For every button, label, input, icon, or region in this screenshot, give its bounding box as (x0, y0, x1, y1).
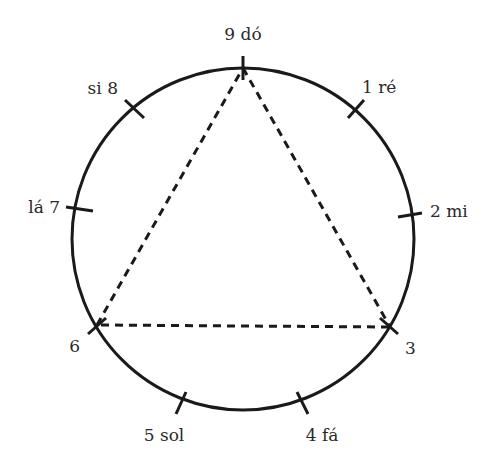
label-6: 6 (69, 336, 80, 356)
label-8-si: si 8 (88, 78, 118, 98)
dashed-triangle (97, 68, 389, 327)
label-9-do: 9 dó (224, 24, 261, 44)
label-5-sol: 5 sol (144, 425, 185, 445)
tick-4 (297, 392, 308, 414)
label-4-fa: 4 fá (306, 425, 339, 445)
triangle-edge-3-6 (97, 325, 389, 327)
triangle-edge-6-9 (97, 68, 243, 325)
triangle-edge-9-3 (243, 68, 389, 325)
label-3: 3 (405, 338, 416, 358)
nine-point-circle-diagram: 9 dó 1 ré 2 mi 3 4 fá 5 sol 6 lá 7 si 8 (0, 0, 493, 461)
tick-5 (176, 392, 186, 414)
label-2-mi: 2 mi (430, 201, 468, 221)
label-7-la: lá 7 (28, 197, 60, 217)
tick-marks (66, 56, 422, 414)
label-1-re: 1 ré (362, 77, 396, 97)
outer-circle (72, 68, 414, 410)
tick-2 (398, 213, 422, 217)
tick-7 (66, 207, 93, 211)
